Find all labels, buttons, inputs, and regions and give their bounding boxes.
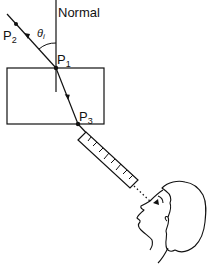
eye-icon — [153, 199, 159, 205]
label-normal: Normal — [58, 5, 100, 20]
label-p3: P3 — [79, 109, 93, 126]
dotted-sightline — [134, 186, 151, 202]
refracted-arrow-icon — [65, 94, 71, 100]
refraction-diagram: Normal θi P2 P1 P3 — [0, 0, 212, 265]
label-p2: P2 — [3, 28, 17, 45]
ruler — [78, 132, 138, 188]
angle-arc — [39, 43, 56, 49]
label-theta: θi — [37, 27, 45, 41]
observer-head — [137, 181, 206, 263]
label-p1: P1 — [57, 52, 71, 69]
p2-point — [14, 22, 18, 26]
